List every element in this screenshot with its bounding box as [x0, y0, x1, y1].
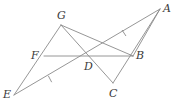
segment-GB [61, 25, 133, 56]
geometry-canvas [0, 0, 179, 107]
segment-GC [61, 25, 113, 83]
vertex-label-b: B [136, 50, 144, 61]
vertex-label-g: G [57, 10, 66, 21]
vertex-label-e: E [3, 89, 11, 100]
geometry-figure: ABCDEFG [0, 0, 179, 107]
vertex-label-d: D [84, 61, 93, 72]
segment-AC [113, 9, 160, 83]
vertex-label-f: F [31, 50, 39, 61]
tick-mark-DA [122, 30, 125, 35]
vertex-label-c: C [109, 88, 117, 99]
vertex-label-a: A [163, 3, 171, 14]
tick-mark-ED [49, 76, 52, 82]
